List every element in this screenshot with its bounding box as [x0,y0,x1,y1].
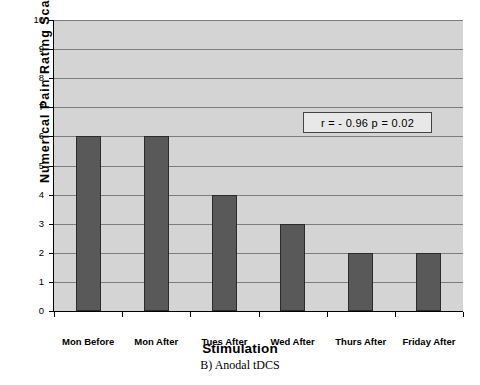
y-axis-tick [49,78,54,79]
x-axis-tick [259,312,260,317]
x-axis-tick [327,312,328,317]
y-axis-tick-label: 1 [14,277,44,287]
bar [280,224,305,311]
y-axis-tick-label: 5 [14,161,44,171]
gridline [54,78,463,79]
bar [144,136,169,311]
y-axis-tick-label: 10 [14,15,44,25]
y-axis-tick-label: 2 [14,248,44,258]
gridline [54,20,463,21]
bar-chart-figure: Numerical Pain Rating Scale 012345678910… [0,0,480,385]
plot-area: 012345678910Mon BeforeMon AfterTues Afte… [53,20,463,312]
y-axis-tick-label: 3 [14,219,44,229]
bar [348,253,373,311]
bar [416,253,441,311]
correlation-annotation: r = - 0.96 p = 0.02 [303,112,432,133]
y-axis-tick [49,282,54,283]
x-axis-tick [122,312,123,317]
y-axis-tick-label: 4 [14,190,44,200]
gridline [54,253,463,254]
gridline [54,195,463,196]
y-axis-tick [49,20,54,21]
x-axis-tick [463,312,464,317]
y-axis-tick [49,136,54,137]
gridline [54,49,463,50]
y-axis-tick [49,195,54,196]
x-axis-tick [54,312,55,317]
y-axis-tick-label: 7 [14,102,44,112]
y-axis-tick [49,224,54,225]
gridline [54,107,463,108]
y-axis-tick [49,49,54,50]
gridline [54,224,463,225]
bar [212,195,237,311]
y-axis-tick [49,253,54,254]
x-axis-tick [395,312,396,317]
gridline [54,136,463,137]
y-axis-tick-label: 6 [14,131,44,141]
y-axis-tick-label: 9 [14,44,44,54]
bar [76,136,101,311]
figure-caption: B) Anodal tDCS [0,358,480,373]
y-axis-tick [49,107,54,108]
y-axis-tick-label: 8 [14,73,44,83]
y-axis-tick [49,166,54,167]
x-axis-tick [190,312,191,317]
gridline [54,166,463,167]
y-axis-tick-label: 0 [14,306,44,316]
x-axis-title: Stimulation [0,341,480,356]
gridline [54,282,463,283]
